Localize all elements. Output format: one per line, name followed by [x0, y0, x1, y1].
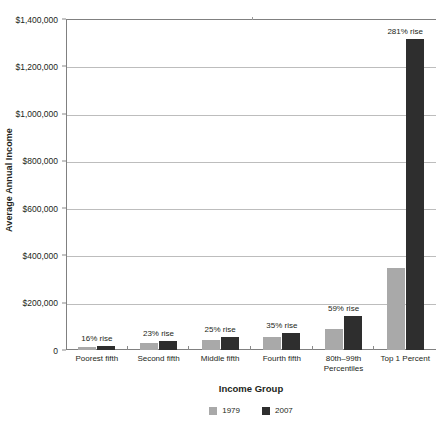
- bar-pair: 281% rise: [387, 39, 424, 350]
- legend-label: 1979: [222, 406, 240, 415]
- rise-annotation: 23% rise: [143, 329, 174, 338]
- bar-2007: [221, 337, 239, 350]
- legend-item: 2007: [262, 406, 293, 415]
- bar-chart: Average Annual Income $1,400,000$1,200,0…: [0, 0, 443, 427]
- y-axis-tick: $400,000: [23, 250, 66, 261]
- y-axis-tick-label: $800,000: [23, 156, 62, 166]
- y-axis-tick: $1,000,000: [15, 108, 66, 119]
- bar-group: 281% rise: [374, 19, 436, 350]
- y-axis-tick-label: $1,200,000: [15, 61, 62, 71]
- rise-annotation: 59% rise: [328, 304, 359, 313]
- bar-1979: [263, 337, 281, 350]
- x-axis-label: Top 1 Percent: [374, 354, 436, 373]
- x-axis-label: Poorest fifth: [66, 354, 128, 373]
- bar-group: 59% rise: [313, 19, 375, 350]
- bar-1979: [78, 347, 96, 350]
- bar-pair: 23% rise: [140, 341, 177, 350]
- x-axis-label: Fourth fifth: [251, 354, 313, 373]
- legend-item: 1979: [209, 406, 240, 415]
- bar-pair: 35% rise: [263, 333, 300, 350]
- bar-groups: 16% rise23% rise25% rise35% rise59% rise…: [66, 19, 436, 350]
- y-axis-tick: $600,000: [23, 203, 66, 214]
- rise-annotation: 281% rise: [387, 27, 423, 36]
- bar-pair: 16% rise: [78, 346, 115, 350]
- x-axis-label: 80th–99th Percentiles: [313, 354, 375, 373]
- bar-pair: 59% rise: [325, 316, 362, 350]
- y-axis-ticks: $1,400,000$1,200,000$1,000,000$800,000$6…: [0, 19, 66, 350]
- bar-1979: [387, 268, 405, 350]
- bar-2007: [344, 316, 362, 350]
- rise-annotation: 35% rise: [266, 321, 297, 330]
- y-axis-tick: 0: [53, 345, 66, 356]
- y-axis-tick: $1,400,000: [15, 14, 66, 25]
- y-axis-tick: $800,000: [23, 155, 66, 166]
- legend: 19792007: [66, 406, 436, 415]
- bar-1979: [140, 343, 158, 350]
- x-axis-label: Middle fifth: [189, 354, 251, 373]
- bar-2007: [97, 346, 115, 350]
- bar-group: 25% rise: [189, 19, 251, 350]
- bar-group: 16% rise: [66, 19, 128, 350]
- bar-group: 35% rise: [251, 19, 313, 350]
- y-axis-tick-label: $600,000: [23, 203, 62, 213]
- bar-2007: [282, 333, 300, 350]
- plot-wrap: 16% rise23% rise25% rise35% rise59% rise…: [66, 19, 436, 350]
- bar-1979: [202, 340, 220, 350]
- rise-annotation: 25% rise: [205, 325, 236, 334]
- y-axis-tick-label: $1,000,000: [15, 109, 62, 119]
- x-axis-labels: Poorest fifthSecond fifthMiddle fifthFou…: [66, 354, 436, 373]
- y-axis-tick-label: $200,000: [23, 298, 62, 308]
- x-axis-title: Income Group: [66, 383, 436, 394]
- x-axis-label: Second fifth: [128, 354, 190, 373]
- y-axis-tick-label: $400,000: [23, 250, 62, 260]
- bar-2007: [406, 39, 424, 350]
- bar-pair: 25% rise: [202, 337, 239, 350]
- legend-label: 2007: [275, 406, 293, 415]
- y-axis-tick: $1,200,000: [15, 61, 66, 72]
- y-axis-tick-label: 0: [53, 345, 62, 355]
- bar-group: 23% rise: [128, 19, 190, 350]
- legend-swatch: [262, 407, 270, 415]
- legend-swatch: [209, 407, 217, 415]
- rise-annotation: 16% rise: [81, 334, 112, 343]
- y-axis-tick: $200,000: [23, 297, 66, 308]
- y-axis-tick-label: $1,400,000: [15, 14, 62, 24]
- bar-2007: [159, 341, 177, 350]
- bar-1979: [325, 329, 343, 350]
